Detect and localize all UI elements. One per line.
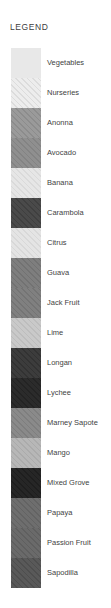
legend-swatch xyxy=(11,468,41,498)
legend-item-label: Marney Sapote xyxy=(47,408,98,438)
legend-swatch-hatch-icon xyxy=(11,258,41,288)
legend-swatch-hatch-icon xyxy=(11,198,41,228)
legend-item[interactable]: Mango xyxy=(0,438,111,468)
legend-item-label: Passion Fruit xyxy=(47,528,91,558)
legend-item-label: Nurseries xyxy=(47,78,79,108)
legend-item-label: Jack Fruit xyxy=(47,288,80,318)
legend-swatch xyxy=(11,408,41,438)
legend-swatch-hatch-icon xyxy=(11,288,41,318)
legend-swatch-hatch-icon xyxy=(11,108,41,138)
legend-swatch-hatch-icon xyxy=(11,558,41,588)
legend-swatch-hatch-icon xyxy=(11,228,41,258)
legend-swatch xyxy=(11,198,41,228)
legend-item-label: Banana xyxy=(47,168,73,198)
legend-item[interactable]: Carambola xyxy=(0,198,111,228)
legend-item[interactable]: Passion Fruit xyxy=(0,528,111,558)
legend-item[interactable]: Mixed Grove xyxy=(0,468,111,498)
legend-swatch-hatch-icon xyxy=(11,168,41,198)
legend-item-list: VegetablesNurseriesAnonnaAvocadoBananaCa… xyxy=(0,48,111,588)
legend-swatch xyxy=(11,168,41,198)
legend-swatch xyxy=(11,318,41,348)
legend-swatch xyxy=(11,288,41,318)
legend-title: LEGEND xyxy=(10,22,49,32)
legend-item[interactable]: Marney Sapote xyxy=(0,408,111,438)
legend-swatch-hatch-icon xyxy=(11,348,41,378)
legend-swatch xyxy=(11,378,41,408)
legend-item[interactable]: Lime xyxy=(0,318,111,348)
legend-item-label: Sapodilla xyxy=(47,558,78,588)
legend-swatch-hatch-icon xyxy=(11,318,41,348)
legend-item[interactable]: Anonna xyxy=(0,108,111,138)
legend-swatch xyxy=(11,228,41,258)
legend-swatch xyxy=(11,528,41,558)
legend-item-label: Citrus xyxy=(47,228,67,258)
legend-item-label: Carambola xyxy=(47,198,84,228)
legend-swatch xyxy=(11,348,41,378)
legend-swatch-hatch-icon xyxy=(11,408,41,438)
legend-item-label: Papaya xyxy=(47,498,72,528)
legend-panel: LEGEND VegetablesNurseriesAnonnaAvocadoB… xyxy=(0,0,111,608)
legend-swatch-hatch-icon xyxy=(11,78,41,108)
legend-item[interactable]: Banana xyxy=(0,168,111,198)
legend-swatch xyxy=(11,138,41,168)
legend-item-label: Mixed Grove xyxy=(47,468,90,498)
legend-item-label: Lime xyxy=(47,318,63,348)
legend-swatch xyxy=(11,48,41,78)
legend-swatch xyxy=(11,258,41,288)
legend-item-label: Avocado xyxy=(47,138,76,168)
legend-item-label: Longan xyxy=(47,348,72,378)
legend-swatch-hatch-icon xyxy=(11,438,41,468)
legend-swatch xyxy=(11,108,41,138)
legend-item[interactable]: Longan xyxy=(0,348,111,378)
legend-item[interactable]: Citrus xyxy=(0,228,111,258)
legend-item[interactable]: Nurseries xyxy=(0,78,111,108)
legend-item[interactable]: Vegetables xyxy=(0,48,111,78)
legend-item[interactable]: Guava xyxy=(0,258,111,288)
legend-item[interactable]: Papaya xyxy=(0,498,111,528)
legend-swatch-hatch-icon xyxy=(11,498,41,528)
legend-swatch-hatch-icon xyxy=(11,468,41,498)
legend-swatch xyxy=(11,558,41,588)
legend-item-label: Mango xyxy=(47,438,70,468)
legend-item[interactable]: Sapodilla xyxy=(0,558,111,588)
legend-item-label: Anonna xyxy=(47,108,73,138)
legend-swatch-hatch-icon xyxy=(11,378,41,408)
legend-item-label: Lychee xyxy=(47,378,71,408)
legend-swatch-fill xyxy=(11,48,41,78)
legend-swatch xyxy=(11,438,41,468)
legend-item-label: Guava xyxy=(47,258,69,288)
legend-item[interactable]: Jack Fruit xyxy=(0,288,111,318)
legend-swatch xyxy=(11,78,41,108)
legend-item[interactable]: Lychee xyxy=(0,378,111,408)
legend-swatch xyxy=(11,498,41,528)
legend-item[interactable]: Avocado xyxy=(0,138,111,168)
legend-item-label: Vegetables xyxy=(47,48,84,78)
legend-swatch-hatch-icon xyxy=(11,528,41,558)
legend-swatch-hatch-icon xyxy=(11,138,41,168)
